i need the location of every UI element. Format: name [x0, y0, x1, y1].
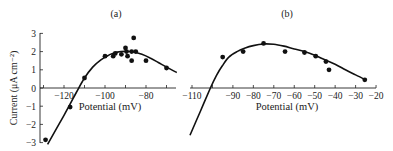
x-tick-label: −20	[369, 91, 384, 101]
data-point	[241, 49, 246, 54]
y-tick-label: −3	[26, 138, 36, 148]
data-point	[220, 55, 225, 60]
panel-b-chart: (b) −110−90−80−70−60−50−40−30−20 Potenti…	[182, 8, 383, 135]
data-point	[103, 54, 108, 59]
x-tick-label: −40	[328, 91, 343, 101]
data-point	[113, 51, 118, 56]
data-point	[362, 77, 367, 82]
y-tick-label: 0	[31, 84, 36, 94]
panel-b-title: (b)	[281, 8, 293, 20]
x-tick-label: −30	[348, 91, 363, 101]
panel-a-title: (a)	[110, 8, 121, 20]
data-point	[131, 36, 136, 41]
data-point	[129, 49, 134, 54]
x-tick-label: −110	[182, 91, 202, 101]
y-tick-label: 3	[31, 29, 36, 39]
panel-a-x-ticks: −120−100−80	[44, 85, 167, 101]
panel-a-data-points	[43, 36, 169, 143]
data-point	[124, 49, 129, 54]
figure: (a) 3210−1−2−3 −120−100−80 Potential (mV…	[0, 0, 393, 151]
panel-b-fit-curve	[190, 44, 366, 135]
x-tick-label: −60	[287, 91, 302, 101]
data-point	[68, 105, 73, 110]
data-point	[164, 66, 169, 71]
data-point	[144, 58, 149, 63]
data-point	[327, 67, 332, 72]
data-point	[119, 52, 124, 57]
x-tick-label: −70	[266, 91, 281, 101]
data-point	[43, 137, 48, 142]
data-point	[129, 58, 134, 63]
x-tick-label: −80	[246, 91, 261, 101]
data-point	[283, 49, 288, 54]
y-tick-label: 1	[31, 65, 36, 75]
x-tick-label: −80	[139, 91, 154, 101]
panel-b-x-label: Potential (mV)	[256, 101, 319, 113]
data-point	[133, 49, 138, 54]
data-point	[82, 76, 87, 81]
data-point	[313, 54, 318, 59]
x-tick-label: −100	[95, 91, 115, 101]
data-point	[261, 41, 266, 46]
y-tick-label: −1	[26, 102, 36, 112]
x-tick-label: −90	[225, 91, 240, 101]
x-tick-label: −50	[307, 91, 322, 101]
panel-b-x-ticks: −110−90−80−70−60−50−40−30−20	[182, 85, 383, 101]
y-tick-label: 2	[31, 47, 36, 57]
data-point	[125, 54, 130, 59]
panel-b-data-points	[220, 41, 367, 82]
panel-a-chart: (a) 3210−1−2−3 −120−100−80 Potential (mV…	[8, 8, 177, 148]
y-tick-label: −2	[26, 120, 36, 130]
data-point	[324, 59, 329, 64]
x-tick-label: −120	[54, 91, 74, 101]
data-point	[302, 50, 307, 55]
panel-a-x-label: Potential (mV)	[79, 101, 142, 113]
y-axis-label: Current (μA cm⁻²)	[8, 51, 20, 126]
